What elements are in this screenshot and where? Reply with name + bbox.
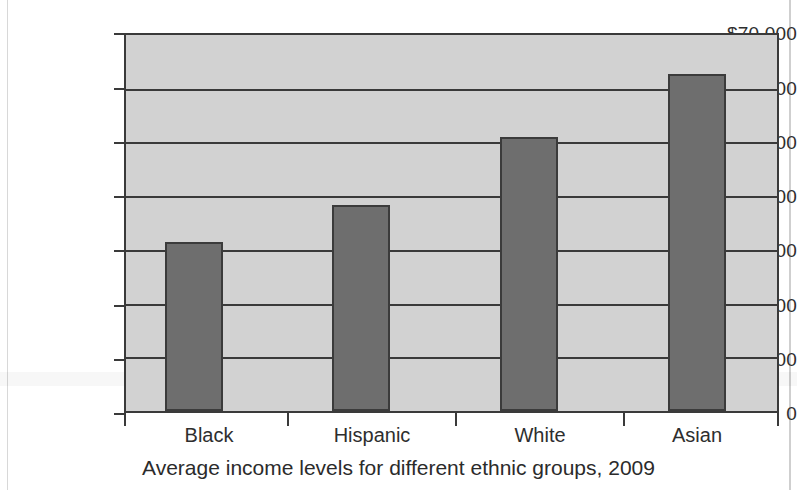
- x-tick-label-asian: Asian: [622, 423, 772, 447]
- page-edge-left: [7, 0, 8, 490]
- x-tick-label-black: Black: [134, 423, 284, 447]
- bar-black: [165, 242, 223, 411]
- x-tick-mark: [124, 413, 126, 426]
- plot-area: [124, 33, 779, 413]
- bar-hispanic: [332, 205, 390, 411]
- x-tick-label-hispanic: Hispanic: [297, 423, 447, 447]
- bar-white: [500, 137, 558, 411]
- x-tick-mark: [455, 413, 457, 426]
- x-tick-mark: [777, 413, 779, 426]
- income-bar-chart-figure: $70 000 $60 000 $50 000 $40 000 $30 000 …: [0, 0, 797, 490]
- x-tick-mark: [287, 413, 289, 426]
- bar-asian: [668, 74, 726, 411]
- x-tick-label-white: White: [465, 423, 615, 447]
- chart-caption: Average income levels for different ethn…: [0, 455, 797, 481]
